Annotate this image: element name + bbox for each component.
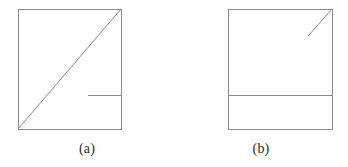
panel-b-drawing <box>174 0 348 140</box>
panel-b-square <box>229 10 333 130</box>
figure-panel-b: (b) <box>174 0 348 167</box>
panel-a-caption: (a) <box>0 140 174 158</box>
figure-root: (a) (b) <box>0 0 348 167</box>
panel-b-caption: (b) <box>174 140 348 158</box>
panel-a-square <box>19 10 122 130</box>
panel-a-main-diagonal <box>18 9 121 129</box>
panel-b-corner-diagonal <box>308 9 332 36</box>
figure-panel-a: (a) <box>0 0 174 167</box>
panel-a-drawing <box>0 0 174 140</box>
